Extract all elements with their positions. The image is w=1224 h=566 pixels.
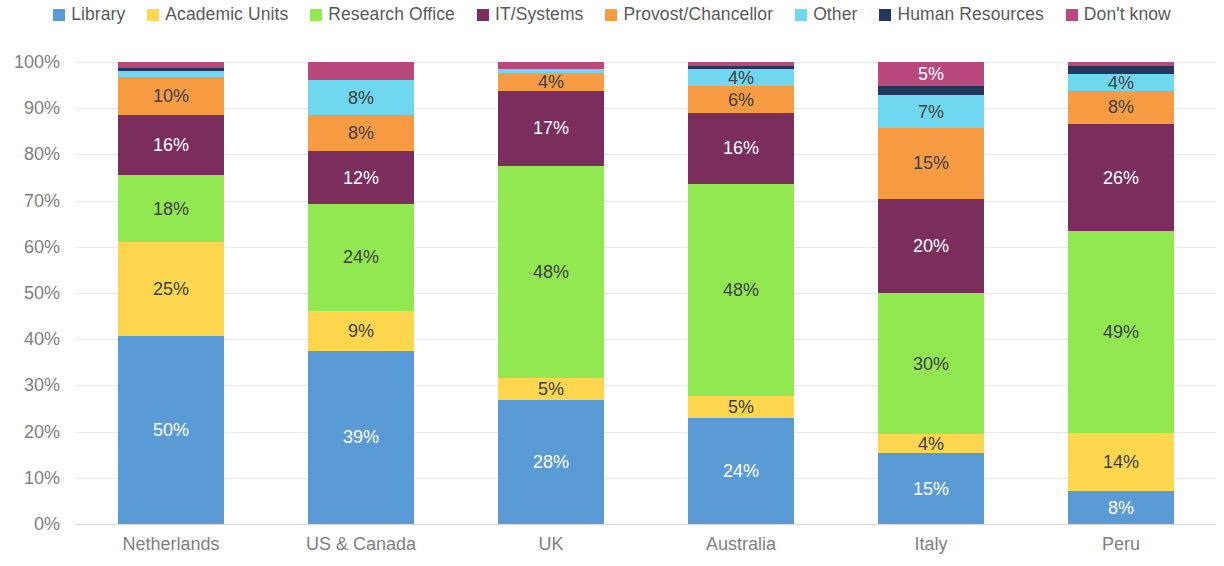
legend-item[interactable]: Research Office bbox=[310, 6, 455, 24]
bar-segment[interactable]: 20% bbox=[878, 199, 984, 293]
y-axis: 0%10%20%30%40%50%60%70%80%90%100% bbox=[0, 62, 68, 524]
bar-segment[interactable]: 7% bbox=[878, 95, 984, 128]
x-axis-tick-label: Netherlands bbox=[96, 534, 246, 555]
bar-segment[interactable]: 4% bbox=[1068, 74, 1174, 91]
stacked-bar-chart: LibraryAcademic UnitsResearch OfficeIT/S… bbox=[0, 0, 1224, 566]
bar-segment-label: 4% bbox=[918, 435, 944, 453]
bar-segment[interactable]: 8% bbox=[308, 115, 414, 151]
bar-segment[interactable] bbox=[118, 62, 224, 68]
bar-segment-label: 50% bbox=[153, 421, 189, 439]
bar-segment[interactable]: 5% bbox=[688, 396, 794, 418]
bar-segment-label: 6% bbox=[728, 91, 754, 109]
legend-item[interactable]: IT/Systems bbox=[477, 6, 584, 24]
bar-column[interactable]: 39%9%24%12%8%8% bbox=[308, 62, 414, 524]
bar-segment-label: 24% bbox=[723, 462, 759, 480]
bar-column[interactable]: 50%25%18%16%10% bbox=[118, 62, 224, 524]
bar-segment[interactable]: 8% bbox=[1068, 491, 1174, 524]
bar-segment[interactable]: 49% bbox=[1068, 231, 1174, 433]
y-axis-tick-label: 100% bbox=[14, 52, 60, 73]
x-axis-tick-label: Peru bbox=[1046, 534, 1196, 555]
bar-segment[interactable]: 16% bbox=[688, 113, 794, 184]
bar-column[interactable]: 8%14%49%26%8%4% bbox=[1068, 62, 1174, 524]
bar-stack: 50%25%18%16%10% bbox=[118, 62, 224, 524]
legend-item[interactable]: Library bbox=[53, 6, 125, 24]
bar-segment[interactable]: 10% bbox=[118, 77, 224, 115]
bar-stack: 28%5%48%17%4% bbox=[498, 62, 604, 524]
legend-swatch-icon bbox=[1066, 9, 1078, 21]
legend-item[interactable]: Academic Units bbox=[147, 6, 288, 24]
bar-segment[interactable] bbox=[878, 86, 984, 95]
bar-segment[interactable]: 25% bbox=[118, 242, 224, 336]
y-axis-tick-label: 30% bbox=[24, 375, 60, 396]
x-axis-tick-label: UK bbox=[476, 534, 626, 555]
bar-segment[interactable] bbox=[118, 71, 224, 77]
x-axis: NetherlandsUS & CanadaUKAustraliaItalyPe… bbox=[76, 530, 1216, 566]
bar-segment[interactable] bbox=[1068, 62, 1174, 66]
bar-segment[interactable]: 26% bbox=[1068, 124, 1174, 231]
legend-item-label: Library bbox=[71, 6, 125, 24]
bar-segment-label: 5% bbox=[538, 380, 564, 398]
bar-segment[interactable]: 24% bbox=[688, 418, 794, 524]
bar-segment[interactable]: 4% bbox=[688, 69, 794, 87]
bar-segment[interactable]: 30% bbox=[878, 293, 984, 434]
bar-segment-label: 10% bbox=[153, 87, 189, 105]
y-axis-tick-label: 50% bbox=[24, 283, 60, 304]
bar-segment[interactable] bbox=[688, 62, 794, 66]
bar-segment[interactable]: 15% bbox=[878, 453, 984, 524]
bar-segment[interactable]: 9% bbox=[308, 311, 414, 351]
legend-item[interactable]: Don't know bbox=[1066, 6, 1171, 24]
bar-segment-label: 17% bbox=[533, 119, 569, 137]
bar-segment[interactable]: 8% bbox=[308, 80, 414, 116]
bar-segment[interactable] bbox=[688, 66, 794, 69]
bar-segment-label: 4% bbox=[728, 69, 754, 87]
bar-segment-label: 14% bbox=[1103, 453, 1139, 471]
bar-segment[interactable]: 17% bbox=[498, 91, 604, 166]
bar-segment[interactable]: 14% bbox=[1068, 433, 1174, 491]
bar-segment[interactable]: 50% bbox=[118, 336, 224, 524]
bar-segment[interactable]: 48% bbox=[498, 166, 604, 378]
legend-swatch-icon bbox=[147, 9, 159, 21]
y-axis-tick-label: 0% bbox=[34, 514, 60, 535]
bar-segment-label: 24% bbox=[343, 248, 379, 266]
x-axis-tick-label: Italy bbox=[856, 534, 1006, 555]
bar-segment-label: 4% bbox=[538, 73, 564, 91]
bar-segment[interactable] bbox=[118, 68, 224, 72]
legend-item[interactable]: Other bbox=[795, 6, 857, 24]
bar-segment[interactable]: 15% bbox=[878, 128, 984, 199]
bar-segment[interactable]: 5% bbox=[878, 62, 984, 86]
bar-segment[interactable]: 4% bbox=[498, 73, 604, 91]
y-axis-tick-label: 10% bbox=[24, 467, 60, 488]
y-axis-tick-label: 70% bbox=[24, 190, 60, 211]
legend-item[interactable]: Provost/Chancellor bbox=[605, 6, 773, 24]
bar-segment[interactable]: 4% bbox=[878, 434, 984, 453]
y-axis-tick-label: 90% bbox=[24, 98, 60, 119]
bar-segment[interactable]: 48% bbox=[688, 184, 794, 396]
bar-column[interactable]: 15%4%30%20%15%7%5% bbox=[878, 62, 984, 524]
bar-segment[interactable]: 12% bbox=[308, 151, 414, 204]
bar-stack: 15%4%30%20%15%7%5% bbox=[878, 62, 984, 524]
bar-segment[interactable] bbox=[498, 62, 604, 69]
bar-segment-label: 28% bbox=[533, 453, 569, 471]
bar-column[interactable]: 24%5%48%16%6%4% bbox=[688, 62, 794, 524]
bar-segment[interactable]: 16% bbox=[118, 115, 224, 175]
bar-segment[interactable]: 24% bbox=[308, 204, 414, 311]
bar-segment-label: 48% bbox=[723, 281, 759, 299]
bar-segment[interactable]: 28% bbox=[498, 400, 604, 524]
bar-segment[interactable] bbox=[1068, 66, 1174, 74]
bar-segment[interactable]: 8% bbox=[1068, 91, 1174, 124]
bar-segment-label: 7% bbox=[918, 103, 944, 121]
bar-stack: 24%5%48%16%6%4% bbox=[688, 62, 794, 524]
bar-stack: 39%9%24%12%8%8% bbox=[308, 62, 414, 524]
bar-column[interactable]: 28%5%48%17%4% bbox=[498, 62, 604, 524]
bar-segment[interactable]: 5% bbox=[498, 378, 604, 400]
bar-segment[interactable] bbox=[498, 69, 604, 73]
bar-segment[interactable]: 18% bbox=[118, 175, 224, 243]
bar-segment[interactable]: 6% bbox=[688, 86, 794, 113]
y-axis-tick-label: 80% bbox=[24, 144, 60, 165]
bar-segment-label: 5% bbox=[728, 398, 754, 416]
legend-item[interactable]: Human Resources bbox=[879, 6, 1043, 24]
bar-segment-label: 39% bbox=[343, 428, 379, 446]
bar-segment[interactable] bbox=[308, 62, 414, 80]
bar-segment-label: 15% bbox=[913, 154, 949, 172]
bar-segment[interactable]: 39% bbox=[308, 351, 414, 524]
